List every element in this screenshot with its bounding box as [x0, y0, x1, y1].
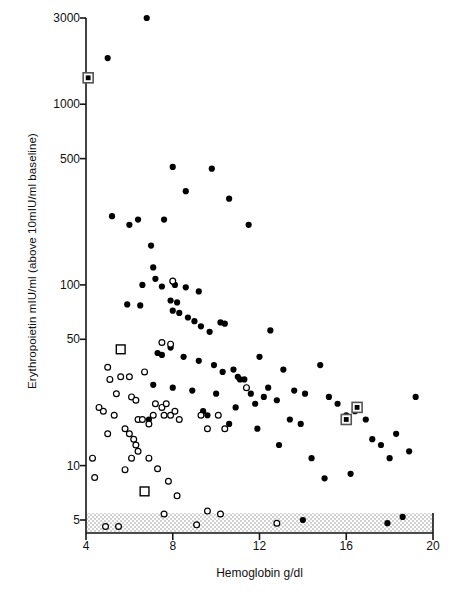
data-point-open-circle — [174, 493, 180, 499]
data-point-filled-circle — [152, 276, 158, 282]
data-point-filled-circle — [287, 416, 293, 422]
data-point-filled-circle — [159, 283, 165, 289]
data-point-open-circle — [161, 412, 167, 418]
data-point-open-circle — [168, 341, 174, 347]
data-point-open-circle — [105, 364, 111, 370]
data-point-filled-circle — [321, 475, 327, 481]
data-point-filled-circle — [170, 308, 176, 314]
data-point-filled-circle — [185, 314, 191, 320]
data-point-open-circle — [135, 448, 141, 454]
data-point-open-circle — [126, 374, 132, 380]
data-point-open-circle — [122, 426, 128, 432]
plot-canvas — [0, 0, 455, 606]
data-point-filled-circle — [369, 436, 375, 442]
data-point-open-circle — [146, 455, 152, 461]
data-point-filled-circle — [291, 388, 297, 394]
below-detection-band — [87, 513, 433, 533]
data-point-filled-circle — [393, 431, 399, 437]
data-point-filled-circle — [137, 302, 143, 308]
data-point-open-circle — [150, 412, 156, 418]
data-point-filled-circle — [274, 397, 280, 403]
data-point-filled-circle — [198, 323, 204, 329]
data-point-filled-circle — [241, 376, 247, 382]
data-point-filled-circle — [183, 284, 189, 290]
data-point-filled-circle — [213, 391, 219, 397]
data-point-filled-circle — [254, 426, 260, 432]
data-point-open-circle — [274, 520, 280, 526]
data-point-filled-circle — [139, 282, 145, 288]
data-point-filled-circle — [150, 264, 156, 270]
data-point-filled-circle — [209, 166, 215, 172]
data-point-filled-circle — [280, 366, 286, 372]
data-point-filled-square-outlined — [352, 402, 362, 412]
data-point-filled-circle — [252, 401, 258, 407]
data-point-filled-circle — [347, 471, 353, 477]
data-point-filled-circle — [109, 213, 115, 219]
data-point-filled-circle — [222, 321, 228, 327]
data-point-filled-circle — [246, 222, 252, 228]
data-point-filled-circle — [261, 394, 267, 400]
data-point-open-circle — [113, 391, 119, 397]
data-point-open-circle — [92, 475, 98, 481]
data-point-filled-circle — [105, 55, 111, 61]
data-point-open-circle — [139, 417, 145, 423]
data-point-filled-circle — [387, 455, 393, 461]
data-point-filled-circle — [207, 329, 213, 335]
data-point-filled-circle — [317, 362, 323, 368]
data-point-open-circle — [176, 417, 182, 423]
data-point-open-circle — [172, 408, 178, 414]
data-point-filled-circle — [256, 354, 262, 360]
data-point-open-circle — [166, 478, 172, 484]
data-point-filled-circle — [126, 222, 132, 228]
data-point-filled-circle — [298, 421, 304, 427]
data-point-open-circle — [155, 466, 161, 472]
data-point-filled-circle — [124, 301, 130, 307]
data-point-filled-circle — [300, 517, 306, 523]
data-point-filled-circle — [406, 448, 412, 454]
data-point-open-circle — [118, 374, 124, 380]
data-point-filled-circle — [384, 520, 390, 526]
data-point-open-circle — [163, 401, 169, 407]
data-point-filled-circle — [159, 352, 165, 358]
data-point-filled-circle — [248, 391, 254, 397]
data-point-filled-circle — [400, 514, 406, 520]
data-point-filled-circle — [148, 243, 154, 249]
data-point-filled-circle — [378, 442, 384, 448]
data-point-open-circle — [153, 401, 159, 407]
scatter-figure: Erythropoietin mIU/ml (above 10mIU/ml ba… — [0, 0, 455, 606]
data-point-open-circle — [142, 369, 148, 375]
data-point-open-circle — [111, 412, 117, 418]
data-point-open-circle — [131, 436, 137, 442]
data-point-open-circle — [215, 412, 221, 418]
data-point-open-circle — [103, 524, 109, 530]
data-point-open-circle — [244, 385, 250, 391]
data-point-open-circle — [194, 522, 200, 528]
data-point-filled-circle — [170, 164, 176, 170]
data-point-filled-circle — [180, 354, 186, 360]
data-point-filled-circle — [196, 288, 202, 294]
data-point-filled-circle — [174, 299, 180, 305]
data-point-filled-circle — [308, 455, 314, 461]
data-point-open-circle — [205, 426, 211, 432]
data-point-filled-circle — [363, 416, 369, 422]
data-point-filled-circle — [161, 216, 167, 222]
data-point-filled-circle — [189, 388, 195, 394]
data-point-filled-circle — [220, 369, 226, 375]
data-point-filled-circle — [176, 310, 182, 316]
data-point-open-circle — [170, 278, 176, 284]
data-point-filled-circle — [326, 394, 332, 400]
data-point-filled-circle — [302, 391, 308, 397]
data-point-open-circle — [107, 376, 113, 382]
data-point-open-circle — [146, 421, 152, 427]
data-point-open-circle — [105, 431, 111, 437]
data-point-open-circle — [205, 508, 211, 514]
data-point-filled-circle — [183, 188, 189, 194]
data-point-open-circle — [161, 511, 167, 517]
data-point-open-circle — [126, 431, 132, 437]
data-point-filled-circle — [167, 297, 173, 303]
data-point-filled-circle — [211, 362, 217, 368]
data-point-filled-circle — [170, 385, 176, 391]
data-point-filled-circle — [204, 412, 210, 418]
data-point-filled-circle — [230, 366, 236, 372]
data-point-filled-circle — [334, 401, 340, 407]
